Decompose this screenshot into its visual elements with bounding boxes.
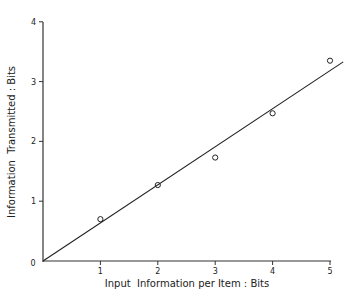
data-point — [98, 217, 103, 222]
x-tick-label: 1 — [98, 267, 103, 276]
data-series — [43, 58, 343, 261]
x-tick-label: 5 — [327, 267, 332, 276]
x-tick-label: 4 — [270, 267, 275, 276]
fit-line — [43, 62, 343, 261]
data-point — [327, 58, 332, 63]
x-tick-label: 2 — [155, 267, 160, 276]
data-point — [270, 111, 275, 116]
axes — [43, 22, 331, 262]
y-tick-label: 3 — [31, 78, 36, 87]
y-axis-label: Information Transmitted : Bits — [6, 66, 17, 218]
x-ticks: 12345 — [98, 261, 333, 276]
data-point — [213, 155, 218, 160]
y-tick-label: 1 — [31, 197, 36, 206]
y-tick-label: 4 — [31, 18, 36, 27]
y-ticks: 1234 — [31, 18, 43, 206]
y-tick-label: 2 — [31, 137, 36, 146]
origin-label: 0 — [30, 259, 35, 268]
x-axis-label: Input Information per Item : Bits — [105, 278, 269, 289]
scatter-chart: 1234 12345 0 Input Information per Item … — [0, 0, 356, 303]
x-tick-label: 3 — [213, 267, 218, 276]
